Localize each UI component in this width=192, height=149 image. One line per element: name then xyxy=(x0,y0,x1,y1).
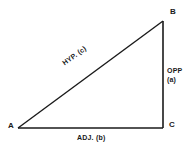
opposite-side-label: OPP (a) xyxy=(167,66,182,84)
right-triangle-diagram: A B C HYP. (c) OPP (a) ADJ. (b) xyxy=(0,0,192,149)
triangle-shape xyxy=(0,0,192,149)
vertex-label-b: B xyxy=(170,7,176,16)
opposite-side-label-name: OPP xyxy=(167,66,182,75)
opposite-side-label-variable: (a) xyxy=(167,75,182,84)
adjacent-side-label: ADJ. (b) xyxy=(77,133,105,142)
vertex-label-a: A xyxy=(8,121,14,130)
hypotenuse-line xyxy=(18,21,163,128)
vertex-label-c: C xyxy=(169,120,175,129)
